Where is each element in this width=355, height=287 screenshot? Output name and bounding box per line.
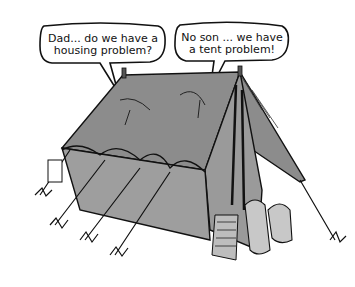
speech-bubble-dad-text: No son ... we have a tent problem! xyxy=(180,32,284,56)
speech-bubble-son-text: Dad... do we have a housing problem? xyxy=(46,33,160,57)
feet-sticking-out xyxy=(245,200,292,254)
